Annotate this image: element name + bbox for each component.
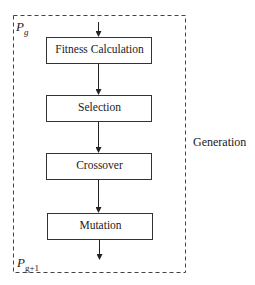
input-population-label: Pg	[16, 20, 28, 37]
output-population-label: Pg+1	[17, 256, 39, 273]
step-label-mutation: Mutation	[48, 220, 153, 232]
step-label-fitness: Fitness Calculation	[47, 44, 152, 56]
step-label-crossover: Crossover	[47, 160, 152, 172]
generation-label: Generation	[193, 136, 246, 148]
step-label-selection: Selection	[47, 102, 152, 114]
